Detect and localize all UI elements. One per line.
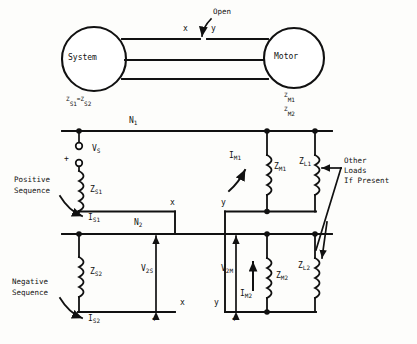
system-node-label: System: [68, 54, 120, 63]
node-pos-motor-return: [264, 209, 270, 215]
negative-sequence-label-line2: Sequence: [12, 289, 48, 297]
negative-sequence-label-line1: Negative: [12, 278, 48, 286]
open-label: Open: [213, 8, 231, 16]
neg-polarity-right-plus: +: [232, 315, 237, 324]
figure-canvas: System Motor Open x y ZS1=ZS2 ZM1 ZM2 N1…: [0, 0, 417, 344]
is2-label: IS2: [88, 315, 100, 324]
inductor-zl2: [315, 258, 320, 298]
pos-terminal-y-label: y: [221, 199, 226, 208]
inductor-zm2: [267, 258, 272, 298]
inductor-zs2: [79, 257, 84, 297]
one-line-terminal-x-label: x: [183, 25, 188, 34]
bus-n2-label: N2: [134, 219, 142, 228]
pos-terminal-x-label: x: [170, 199, 175, 208]
inductor-zs1: [79, 171, 84, 211]
is1-label: IS1: [88, 214, 100, 223]
source-terminal-lower: [76, 160, 83, 167]
v2m-label: V2M: [221, 265, 233, 274]
zl1-label: ZL1: [299, 158, 311, 167]
zl2-label: ZL2: [298, 262, 310, 271]
neg-terminal-x-label: x: [180, 299, 185, 308]
source-terminal-upper: [76, 143, 83, 150]
other-loads-line1: Other: [344, 157, 367, 165]
one-line-terminal-y-label: y: [211, 25, 216, 34]
zs2-label: ZS2: [90, 268, 102, 277]
system-impedance-label: ZS1=ZS2: [66, 96, 91, 107]
motor-impedance-1-label: ZM1: [284, 92, 295, 103]
inductor-zm1: [267, 155, 272, 195]
neg-terminal-y-label: y: [214, 299, 219, 308]
motor-node-label: Motor: [274, 53, 316, 62]
im1-arrow: [229, 170, 245, 191]
other-loads-line3: If Present: [344, 177, 389, 185]
motor-impedance-2-label: ZM2: [284, 106, 295, 117]
im1-label: IM1: [229, 152, 241, 161]
source-polarity-plus: +: [64, 155, 69, 164]
open-arrow: [202, 19, 211, 36]
zs1-label: ZS1: [90, 186, 102, 195]
zm2-label: ZM2: [276, 272, 288, 281]
zm1-label: ZM1: [274, 163, 286, 172]
positive-sequence-label-line1: Positive: [14, 176, 50, 184]
source-vs-label: VS: [92, 145, 100, 154]
positive-sequence-label-line2: Sequence: [14, 187, 50, 195]
inductor-zl1: [315, 155, 320, 195]
neg-polarity-left-plus: +: [152, 315, 157, 324]
other-loads-line2: Loads: [344, 167, 367, 175]
im2-label: IM2: [240, 290, 252, 299]
v2s-label: V2S: [141, 265, 153, 274]
positive-sequence-arrow: [60, 196, 82, 216]
bus-n1-label: N1: [129, 117, 137, 126]
